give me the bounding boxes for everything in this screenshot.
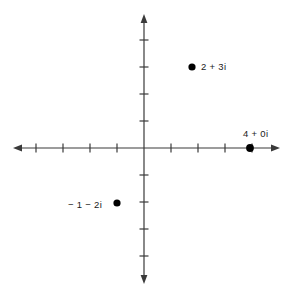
axis-arrow-right-icon: [271, 145, 280, 152]
point-label-2plus3i: 2 + 3i: [201, 61, 226, 72]
axis-arrow-down-icon: [141, 275, 148, 284]
point-label-4plus0i: 4 + 0i: [243, 128, 268, 139]
data-point-2plus3i: [188, 63, 195, 70]
axis-arrow-left-icon: [13, 145, 22, 152]
data-point-minus1minus2i: [113, 199, 120, 206]
axis-arrow-up-icon: [141, 14, 148, 23]
argand-diagram: 2 + 3i 4 + 0i − 1 − 2i: [0, 0, 292, 296]
argand-plot-svg: [0, 0, 292, 296]
data-point-4plus0i: [246, 144, 254, 152]
point-label-minus1minus2i: − 1 − 2i: [68, 199, 102, 210]
